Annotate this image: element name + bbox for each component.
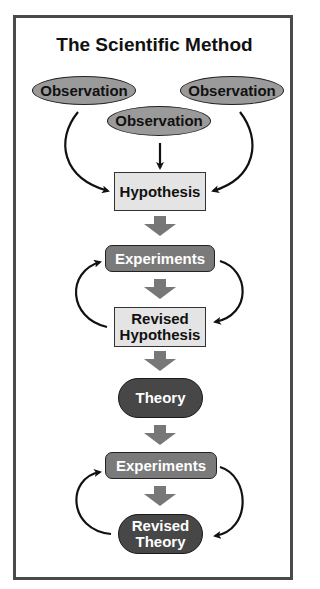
node-revised-theory: Revised Theory: [118, 514, 203, 554]
node-observation-center: Observation: [107, 106, 211, 136]
revised-hypothesis-line-1: Revised: [131, 311, 189, 327]
node-hypothesis: Hypothesis: [114, 172, 206, 211]
revised-theory-line-2: Theory: [135, 534, 185, 550]
node-observation-right: Observation: [180, 76, 284, 105]
node-experiments-2: Experiments: [105, 452, 217, 479]
node-theory: Theory: [118, 378, 203, 418]
node-observation-left: Observation: [32, 76, 136, 105]
revised-theory-line-1: Revised: [132, 518, 190, 534]
revised-hypothesis-line-2: Hypothesis: [120, 327, 201, 343]
node-revised-hypothesis: Revised Hypothesis: [114, 307, 206, 347]
node-experiments-1: Experiments: [105, 245, 215, 272]
